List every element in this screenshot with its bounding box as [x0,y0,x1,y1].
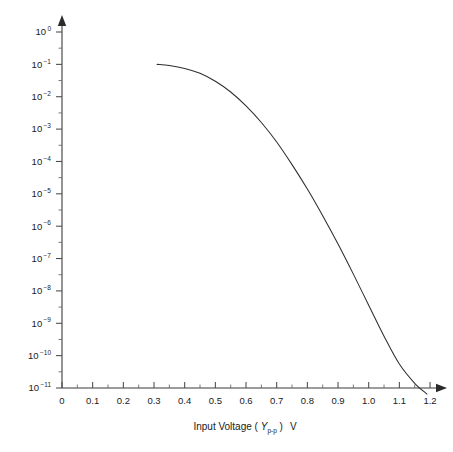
x-tick-label: 0.8 [301,395,314,406]
x-tick-label: 0.9 [331,395,344,406]
x-tick-label: 0.3 [147,395,160,406]
x-tick-label: 0.7 [270,395,283,406]
chart-figure: 10010−110−210−310−410−510−610−710−810−91… [0,0,453,452]
x-tick-label: 0.4 [178,395,191,406]
semilog-plot: 10010−110−210−310−410−510−610−710−810−91… [0,0,453,452]
x-tick-label: 1.1 [393,395,406,406]
x-tick-label: 0.5 [209,395,222,406]
x-tick-label: 1.2 [423,395,436,406]
plot-background [0,0,453,452]
x-tick-label: 0.6 [239,395,252,406]
x-tick-label: 1.0 [362,395,375,406]
x-tick-label: 0 [59,395,64,406]
x-tick-label: 0.2 [117,395,130,406]
x-tick-label: 0.1 [86,395,99,406]
